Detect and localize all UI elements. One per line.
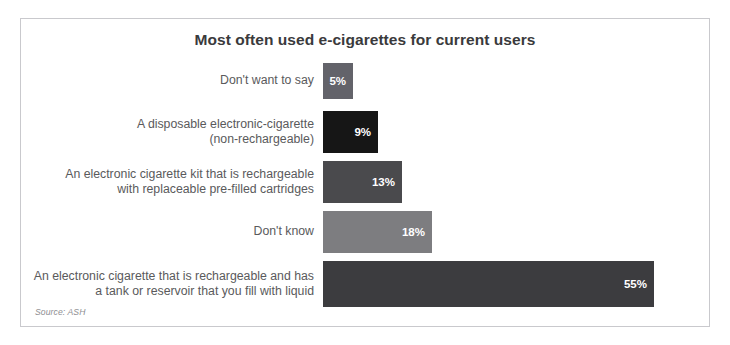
bar-track: 55% xyxy=(323,261,709,307)
bar-track: 9% xyxy=(323,111,709,153)
bar-18-percent: 18% xyxy=(323,211,432,253)
bar-value-label: 55% xyxy=(624,278,654,290)
bar-row: A disposable electronic-cigarette (non-r… xyxy=(21,111,709,153)
bar-5-percent: 5% xyxy=(323,63,353,99)
bar-label: An electronic cigarette that is recharge… xyxy=(21,269,323,300)
bar-label: Don't know xyxy=(21,224,323,240)
bar-value-label: 18% xyxy=(402,226,432,238)
bar-track: 13% xyxy=(323,161,709,203)
bar-track: 18% xyxy=(323,211,709,253)
bar-label: Don't want to say xyxy=(21,73,323,89)
bar-label: A disposable electronic-cigarette (non-r… xyxy=(21,117,323,148)
bar-55-percent: 55% xyxy=(323,261,654,307)
source-note: Source: ASH xyxy=(35,307,85,317)
bar-13-percent: 13% xyxy=(323,161,402,203)
bar-value-label: 9% xyxy=(354,126,378,138)
bar-chart-plot-area: Don't want to say 5% A disposable electr… xyxy=(21,55,709,295)
bar-9-percent: 9% xyxy=(323,111,378,153)
bar-value-label: 5% xyxy=(329,75,353,87)
chart-title: Most often used e-cigarettes for current… xyxy=(21,31,709,49)
bar-row: Don't want to say 5% xyxy=(21,63,709,99)
bar-row: Don't know 18% xyxy=(21,211,709,253)
bar-label: An electronic cigarette kit that is rech… xyxy=(21,167,323,198)
bar-row: An electronic cigarette kit that is rech… xyxy=(21,161,709,203)
bar-value-label: 13% xyxy=(372,176,402,188)
bar-track: 5% xyxy=(323,63,709,99)
chart-frame: Most often used e-cigarettes for current… xyxy=(20,18,710,327)
bar-row: An electronic cigarette that is recharge… xyxy=(21,261,709,307)
